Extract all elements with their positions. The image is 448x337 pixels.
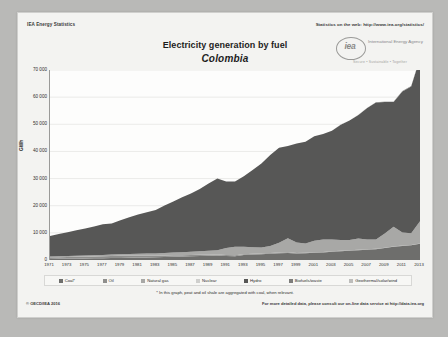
- legend-item: Biofuels/waste: [289, 278, 322, 283]
- x-axis-tick-label: 1993: [238, 262, 248, 267]
- plot-area: [49, 70, 419, 260]
- x-axis-tick-label: 1997: [273, 262, 283, 267]
- page-subtitle: Colombia: [18, 53, 432, 64]
- y-axis-tick-label: 20 000: [21, 203, 47, 208]
- x-axis-tick-label: 2007: [361, 262, 371, 267]
- legend-item: Hydro: [244, 278, 261, 283]
- y-axis-tick-label: 50 000: [21, 121, 47, 126]
- x-axis-tick-label: 1977: [97, 262, 107, 267]
- x-axis-tick-label: 1999: [291, 262, 301, 267]
- legend-swatch-icon: [141, 279, 145, 283]
- area-series-hydro: [50, 70, 420, 256]
- legend-swatch-icon: [196, 279, 200, 283]
- x-axis-tick-label: 1971: [44, 262, 54, 267]
- legend-item: Oil: [103, 278, 114, 283]
- legend-label: Hydro: [250, 278, 261, 283]
- y-axis-tick-label: 0: [21, 257, 47, 262]
- chart-sheet: IEA Energy Statistics Statistics on the …: [17, 12, 433, 318]
- header-left-text: IEA Energy Statistics: [27, 22, 75, 27]
- legend-swatch-icon: [289, 279, 293, 283]
- x-axis-tick-label: 2005: [344, 262, 354, 267]
- y-axis-label: GWh: [19, 140, 24, 151]
- legend-label: Coal*: [65, 278, 75, 283]
- legend-label: Natural gas: [147, 278, 168, 283]
- x-axis-tick-label: 1991: [220, 262, 230, 267]
- header-right-text: Statistics on the web: http://www.iea.or…: [316, 22, 424, 27]
- copyright-text: © OECD/IEA 2016: [26, 301, 60, 306]
- x-axis-tick-label: 1975: [79, 262, 89, 267]
- x-axis-tick-label: 2001: [309, 262, 319, 267]
- legend-swatch-icon: [59, 279, 63, 283]
- x-axis-tick-label: 1981: [132, 262, 142, 267]
- y-axis-tick-label: 60 000: [21, 94, 47, 99]
- y-axis-tick-label: 40 000: [21, 148, 47, 153]
- x-axis-tick-label: 2009: [379, 262, 389, 267]
- x-axis-tick-label: 1987: [185, 262, 195, 267]
- x-axis-tick-label: 1973: [62, 262, 72, 267]
- x-axis-tick-label: 1979: [115, 262, 125, 267]
- stacked-area-chart: [49, 70, 419, 260]
- y-axis-tick-label: 70 000: [21, 67, 47, 72]
- legend-item: Nuclear: [196, 278, 216, 283]
- x-axis-tick-label: 2013: [414, 262, 424, 267]
- x-axis-tick-label: 1989: [203, 262, 213, 267]
- y-axis-tick-label: 30 000: [21, 176, 47, 181]
- legend-swatch-icon: [349, 279, 353, 283]
- more-info-text: For more detailed data, please consult o…: [262, 301, 424, 306]
- y-axis-ticks: 010 00020 00030 00040 00050 00060 00070 …: [18, 70, 47, 265]
- x-axis-tick-label: 2003: [326, 262, 336, 267]
- legend-item: Natural gas: [141, 278, 168, 283]
- chart-legend: Coal*OilNatural gasNuclearHydroBiofuels/…: [44, 275, 412, 286]
- legend-swatch-icon: [103, 279, 107, 283]
- x-axis-tick-label: 1985: [168, 262, 178, 267]
- legend-label: Nuclear: [202, 278, 216, 283]
- legend-item: Geothermal/solar/wind: [349, 278, 397, 283]
- legend-label: Geothermal/solar/wind: [355, 278, 397, 283]
- screenshot-root: IEA Energy Statistics Statistics on the …: [0, 0, 448, 337]
- x-axis-tick-label: 1995: [256, 262, 266, 267]
- y-axis-tick-label: 10 000: [21, 230, 47, 235]
- x-axis-tick-label: 1983: [150, 262, 160, 267]
- legend-label: Biofuels/waste: [295, 278, 322, 283]
- legend-label: Oil: [109, 278, 114, 283]
- legend-swatch-icon: [244, 279, 248, 283]
- page-title: Electricity generation by fuel: [18, 40, 432, 50]
- legend-item: Coal*: [59, 278, 75, 283]
- footnote-text: * In this graph, peat and oil shale are …: [18, 290, 432, 295]
- x-axis-ticks: 1971197319751977197919811983198519871989…: [49, 262, 421, 272]
- x-axis-tick-label: 2011: [397, 262, 406, 267]
